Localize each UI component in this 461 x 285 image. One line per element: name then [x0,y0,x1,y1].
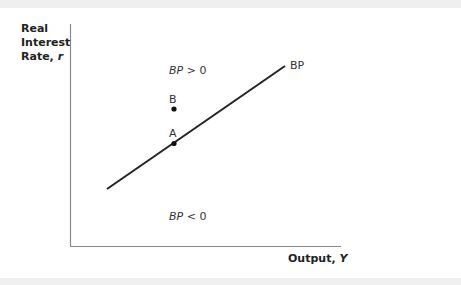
region-below-label: BP < 0 [169,210,206,223]
y-axis-variable: r [58,50,63,63]
region-above-var: BP [169,64,183,77]
point-b-marker [171,106,176,111]
y-axis-label: Real Interest Rate, r [21,22,70,64]
point-b-label: B [169,93,177,106]
region-below-rel: < 0 [183,210,206,223]
region-above-label: BP > 0 [169,64,206,77]
region-below-var: BP [169,210,183,223]
y-axis-label-prefix: Rate, [21,50,58,63]
y-axis-label-line2: Interest [21,36,70,50]
region-above-rel: > 0 [183,64,206,77]
point-a-marker [171,141,176,146]
x-axis-label-prefix: Output, [288,252,339,265]
y-axis-label-line3: Rate, r [21,50,70,64]
y-axis-label-line1: Real [21,22,70,36]
x-axis-label: Output, Y [288,252,347,266]
bp-curve [107,66,285,189]
bp-curve-label: BP [290,59,304,72]
point-a-label: A [169,127,177,140]
x-axis-variable: Y [339,252,347,265]
